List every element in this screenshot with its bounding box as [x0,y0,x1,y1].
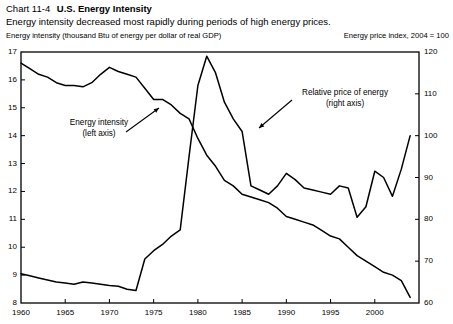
x-axis-tick-label-1975: 1975 [134,308,174,317]
left-axis-tick-label-11: 11 [1,214,17,223]
left-axis-tick-label-15: 15 [1,103,17,112]
chart-container: Chart 11-4 U.S. Energy Intensity Energy … [0,0,453,324]
x-axis-tick-label-1970: 1970 [89,308,129,317]
series-line-energy-intensity [21,63,410,297]
x-axis-tick-label-1960: 1960 [1,308,41,317]
series-line-relative-price-of-energy [21,56,410,290]
right-axis-tick-label-90: 90 [424,173,446,182]
x-axis-tick-label-1965: 1965 [45,308,85,317]
left-axis-tick-label-17: 17 [1,47,17,56]
right-axis-tick-label-110: 110 [424,89,446,98]
right-axis-tick-label-70: 70 [424,256,446,265]
left-axis-tick-label-10: 10 [1,242,17,251]
left-axis-tick-label-16: 16 [1,75,17,84]
left-axis-tick-label-13: 13 [1,159,17,168]
right-axis-tick-label-100: 100 [424,131,446,140]
x-axis-tick-label-1985: 1985 [222,308,262,317]
x-axis-tick-label-2000: 2000 [355,308,395,317]
left-axis-tick-label-14: 14 [1,131,17,140]
x-axis-tick-label-1995: 1995 [311,308,351,317]
left-axis-tick-label-8: 8 [1,298,17,307]
annotation-arrow-energy-intensity-head [154,108,159,113]
plot-area [0,0,453,324]
left-axis-tick-label-9: 9 [1,270,17,279]
x-axis-tick-label-1990: 1990 [266,308,306,317]
x-axis-tick-label-1980: 1980 [178,308,218,317]
annotation-arrow-relative-price [259,100,292,128]
annotation-arrow-energy-intensity [126,108,159,132]
right-axis-tick-label-120: 120 [424,47,446,56]
right-axis-tick-label-80: 80 [424,214,446,223]
right-axis-tick-label-60: 60 [424,298,446,307]
left-axis-tick-label-12: 12 [1,186,17,195]
